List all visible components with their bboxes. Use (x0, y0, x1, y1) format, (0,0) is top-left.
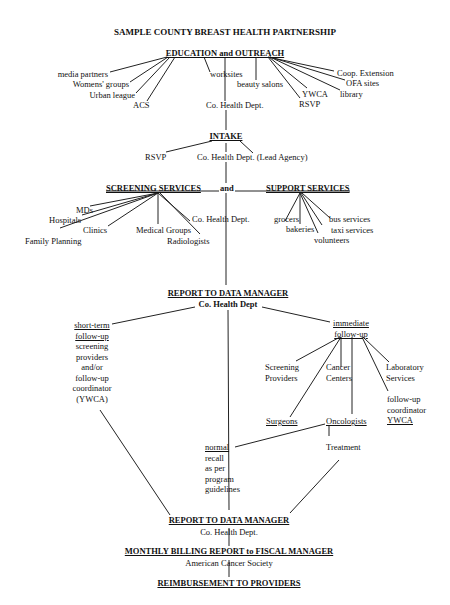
node-grocers: grocers (274, 214, 299, 224)
node-media-partners: media partners (58, 69, 108, 79)
report-1-sub: Co. Health Dept (199, 299, 258, 309)
short-term-line: coordinator (72, 383, 111, 394)
node-treatment: Treatment (326, 442, 361, 452)
node-co-health-lead: Co. Health Dept. (Lead Agency) (197, 152, 307, 162)
label-line: as per (205, 463, 240, 474)
label-line: Centers (326, 373, 352, 384)
education-heading: EDUCATION and OUTREACH (166, 48, 284, 58)
node-acs: ACS (133, 100, 150, 110)
node-normal: normal recall as per program guidelines (205, 442, 240, 495)
node-beauty-salons: beauty salons (237, 79, 283, 89)
node-surgeons: Surgeons (266, 416, 298, 426)
label-line: coordinator (387, 405, 426, 416)
short-term-line: follow-up (72, 373, 111, 384)
short-term-line: providers (72, 352, 111, 363)
billing-sub: American Cancer Society (185, 558, 272, 568)
report-2-sub: Co. Health Dept. (200, 527, 258, 537)
support-services-heading: SUPPORT SERVICES (266, 183, 350, 193)
diagram-title: SAMPLE COUNTY BREAST HEALTH PARTNERSHIP (114, 27, 336, 37)
node-ofa-sites: OFA sites (346, 78, 379, 88)
report-data-manager-2: REPORT TO DATA MANAGER (169, 515, 290, 525)
immediate-followup: immediate follow-up (333, 318, 369, 339)
immediate-heading-2: follow-up (333, 329, 369, 340)
node-co-health-dept-edu: Co. Health Dept. (206, 100, 264, 110)
label-line: YWCA (387, 415, 426, 426)
services-and: and (219, 183, 235, 193)
immediate-heading: immediate (333, 318, 369, 329)
node-mds: MDs (76, 205, 93, 215)
screening-services-heading: SCREENING SERVICES (106, 183, 201, 193)
label-line: guidelines (205, 484, 240, 495)
label-line: Services (386, 373, 424, 384)
node-coop-extension: Coop. Extension (337, 68, 394, 78)
node-family-planning: Family Planning (25, 236, 81, 246)
label-line: Cancer (326, 362, 352, 373)
node-oncologists: Oncologists (326, 416, 367, 426)
report-data-manager-1: REPORT TO DATA MANAGER (168, 288, 289, 298)
label-line: Screening (265, 362, 299, 373)
short-term-followup: short-term follow-up screening providers… (72, 320, 111, 404)
label-line: Providers (265, 373, 299, 384)
node-co-health-screening: Co. Health Dept. (192, 214, 250, 224)
node-womens-groups: Womens' groups (73, 79, 129, 89)
short-term-line: and/or (72, 362, 111, 373)
node-ywca-edu: YWCA (302, 89, 328, 99)
short-term-heading: short-term (72, 320, 111, 331)
node-worksites: worksites (210, 69, 243, 79)
node-urban-league: Urban league (89, 90, 135, 100)
node-radiologists: Radiologists (167, 236, 210, 246)
normal-heading: normal (205, 442, 240, 453)
node-taxi-services: taxi services (331, 225, 373, 235)
node-library: library (340, 89, 363, 99)
node-screening-providers: Screening Providers (265, 362, 299, 383)
node-hospitals: Hospitals (49, 215, 81, 225)
node-clinics: Clinics (83, 225, 107, 235)
node-cancer-centers: Cancer Centers (326, 362, 352, 383)
node-bakeries: bakeries (286, 224, 314, 234)
label-line: Laboratory (386, 362, 424, 373)
label-line: recall (205, 453, 240, 464)
label-line: follow-up (387, 394, 426, 405)
node-volunteers: volunteers (314, 235, 349, 245)
node-medical-groups: Medical Groups (136, 225, 191, 235)
short-term-heading-2: follow-up (72, 331, 111, 342)
short-term-line: screening (72, 341, 111, 352)
node-rsvp-intake: RSVP (145, 152, 166, 162)
short-term-line: (YWCA) (72, 394, 111, 405)
label-line: program (205, 474, 240, 485)
reimbursement-to-providers: REIMBURSEMENT TO PROVIDERS (157, 578, 300, 588)
node-bus-services: bus services (329, 214, 370, 224)
monthly-billing-report: MONTHLY BILLING REPORT to FISCAL MANAGER (125, 546, 333, 556)
node-laboratory-services: Laboratory Services (386, 362, 424, 383)
node-rsvp-edu: RSVP (299, 99, 320, 109)
intake-heading: INTAKE (210, 131, 243, 141)
node-followup-coordinator: follow-up coordinator YWCA (387, 394, 426, 426)
